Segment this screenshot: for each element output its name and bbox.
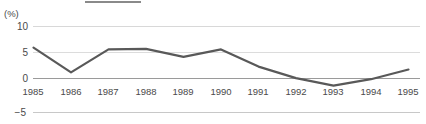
y-tick-label-10: 10: [2, 21, 28, 32]
chart-canvas: [0, 0, 426, 124]
x-tick-label-1986: 1986: [54, 86, 88, 97]
y-tick-label-5: 5: [2, 47, 28, 58]
x-tick-label-1992: 1992: [279, 86, 313, 97]
x-tick-label-1994: 1994: [354, 86, 388, 97]
data-series-line: [34, 48, 409, 86]
x-tick-label-1991: 1991: [241, 86, 275, 97]
x-tick-label-1988: 1988: [129, 86, 163, 97]
y-tick-label-minus5: −5: [0, 107, 26, 118]
x-tick-label-1990: 1990: [204, 86, 238, 97]
x-tick-label-1989: 1989: [166, 86, 200, 97]
x-tick-label-1987: 1987: [91, 86, 125, 97]
x-tick-label-1985: 1985: [16, 86, 50, 97]
y-tick-label-0: 0: [2, 73, 28, 84]
gridlines: [33, 27, 420, 113]
x-tick-label-1995: 1995: [391, 86, 425, 97]
x-tick-label-1993: 1993: [316, 86, 350, 97]
line-chart-figure: (%) 10 5 0 −5 1985 1986 1987 1988 1989 1…: [0, 0, 426, 124]
plot-area: (%) 10 5 0 −5 1985 1986 1987 1988 1989 1…: [0, 0, 426, 124]
